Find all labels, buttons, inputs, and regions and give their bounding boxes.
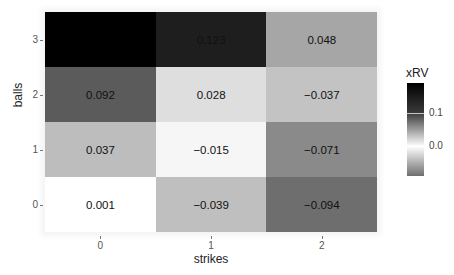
cell-value-label: −0.071 <box>304 144 340 156</box>
x-tick-label: 0 <box>90 240 110 251</box>
heatmap-cell: −0.015 <box>156 122 267 177</box>
heatmap-cell: −0.039 <box>156 177 267 232</box>
x-tick-label: 1 <box>201 240 221 251</box>
y-tick-label: 3 <box>18 34 38 45</box>
y-tick-mark <box>40 150 43 151</box>
cell-value-label: 0.037 <box>86 144 115 156</box>
y-tick-mark <box>40 205 43 206</box>
heatmap-cell: 0.001 <box>45 177 156 232</box>
cell-value-label: 0.123 <box>197 34 226 46</box>
x-tick-mark <box>211 236 212 239</box>
x-tick-mark <box>322 236 323 239</box>
y-tick-mark <box>40 40 43 41</box>
y-tick-mark <box>40 95 43 96</box>
legend-tick-label: 0.1 <box>429 107 443 118</box>
heatmap-cell: −0.071 <box>266 122 377 177</box>
legend-gradient-bar <box>407 83 424 176</box>
cell-value-label: 0.028 <box>197 89 226 101</box>
y-tick-label: 0 <box>18 199 38 210</box>
y-tick-label: 2 <box>18 89 38 100</box>
y-tick-label: 1 <box>18 144 38 155</box>
heatmap-cell: −0.094 <box>266 177 377 232</box>
cell-value-label: −0.037 <box>304 89 340 101</box>
legend-tickmark <box>407 146 424 147</box>
cell-value-label: −0.015 <box>193 144 229 156</box>
heatmap-cell: 0.092 <box>45 67 156 122</box>
legend-title: xRV <box>406 66 428 80</box>
heatmap-cell: 0.048 <box>266 12 377 67</box>
x-tick-label: 2 <box>312 240 332 251</box>
heatmap-cell: −0.037 <box>266 67 377 122</box>
cell-value-label: −0.094 <box>304 199 340 211</box>
legend-tickmark <box>407 113 424 114</box>
cell-value-label: −0.039 <box>193 199 229 211</box>
legend-tick-label: 0.0 <box>429 140 443 151</box>
cell-value-label: 0.048 <box>307 34 336 46</box>
plot-panel: 0.1230.0480.0920.028−0.0370.037−0.015−0.… <box>45 12 377 232</box>
heatmap-cell <box>45 12 156 67</box>
heatmap-cell: 0.123 <box>156 12 267 67</box>
cell-value-label: 0.001 <box>86 199 115 211</box>
heatmap-cell: 0.037 <box>45 122 156 177</box>
x-tick-mark <box>100 236 101 239</box>
cell-value-label: 0.092 <box>86 89 115 101</box>
heatmap-cell: 0.028 <box>156 67 267 122</box>
x-axis-label: strikes <box>181 252 241 266</box>
